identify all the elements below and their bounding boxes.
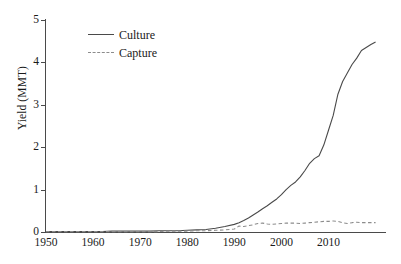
legend-line-solid-icon xyxy=(88,34,114,35)
series-line-culture xyxy=(46,42,376,232)
series-plot-area xyxy=(0,0,401,264)
legend-line-dashed-icon xyxy=(88,52,114,53)
chart-figure: Yield (MMT) 012345 195019601970198019902… xyxy=(0,0,401,264)
legend-label-culture: Culture xyxy=(119,26,155,44)
legend-label-capture: Capture xyxy=(119,44,157,62)
series-line-capture xyxy=(46,221,376,232)
